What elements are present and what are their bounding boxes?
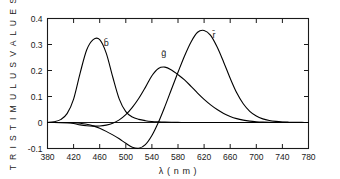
x-tick-label: 700 [249,152,263,162]
b-bar-label: b̄ [104,38,109,48]
y-tick-label: 0 [38,118,43,128]
chart-canvas: 380420460500540580620660700740780-0.100.… [0,0,340,179]
y-tick-label: 0.3 [31,40,43,50]
x-tick-label: 540 [145,152,159,162]
x-tick-label: 780 [301,152,315,162]
y-tick-label: 0.2 [31,66,43,76]
x-tick-label: 740 [275,152,289,162]
x-tick-label: 620 [197,152,211,162]
tristimulus-chart-figure: 380420460500540580620660700740780-0.100.… [0,0,340,179]
y-tick-label: 0.4 [31,14,43,24]
y-tick-label: 0.1 [31,92,43,102]
curve-b-bar [48,38,309,122]
curve-r-bar [48,30,309,148]
x-tick-label: 660 [223,152,237,162]
x-tick-label: 500 [119,152,133,162]
y-axis-label: T R I S T I M U L U S V A L U E S [8,0,18,170]
x-tick-label: 420 [67,152,81,162]
x-tick-label: 380 [40,152,54,162]
x-tick-label: 580 [171,152,185,162]
r-bar-label: r̄ [211,30,215,40]
curve-g-bar [48,67,309,126]
plot-frame [48,19,309,149]
x-tick-label: 460 [93,152,107,162]
y-tick-label: -0.1 [28,144,43,154]
g-bar-label: ḡ [161,48,166,58]
x-axis-label: λ ( n m ) [159,166,197,176]
